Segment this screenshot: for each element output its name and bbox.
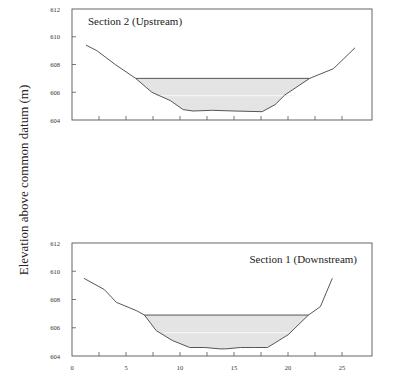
x-tick-label: 25 (339, 364, 346, 371)
y-tick-label: 604 (50, 353, 61, 360)
figure: 604606608610612Section 2 (Upstream) 6046… (0, 0, 393, 377)
y-tick-label: 608 (50, 61, 60, 68)
y-tick-label: 612 (50, 6, 60, 13)
x-tick-label: 20 (285, 364, 292, 371)
chart-panel-section-1-downstream: 6046066086106120510152025Section 1 (Down… (50, 240, 372, 372)
y-tick-label: 604 (50, 117, 61, 124)
y-tick-label: 610 (50, 33, 60, 40)
x-tick-label: 0 (70, 364, 73, 371)
x-tick-label: 15 (231, 364, 238, 371)
y-axis-label: Elevation above common datum (m) (16, 85, 32, 276)
y-tick-label: 610 (50, 268, 60, 275)
chart-panel-section-2-upstream: 604606608610612Section 2 (Upstream) (50, 6, 372, 124)
x-tick-label: 10 (177, 364, 184, 371)
chart-title: Section 1 (Downstream) (249, 253, 357, 266)
chart-title: Section 2 (Upstream) (88, 15, 182, 28)
x-tick-label: 5 (124, 364, 127, 371)
y-tick-label: 606 (50, 324, 61, 331)
water-fill-area (136, 78, 310, 111)
y-tick-label: 608 (50, 296, 60, 303)
y-tick-label: 612 (50, 240, 60, 247)
y-tick-label: 606 (50, 89, 61, 96)
water-fill-area (144, 315, 308, 349)
